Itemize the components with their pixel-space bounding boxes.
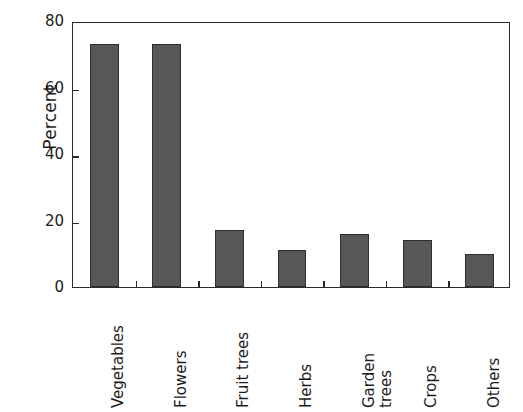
x-axis-category-label: Herbs (298, 290, 338, 408)
y-axis-tick-label: 0 (24, 280, 64, 295)
x-axis-category-label: Vegetables (110, 290, 150, 408)
x-axis-category-label: Flowers (173, 290, 213, 408)
y-axis-tick-label: 80 (24, 14, 64, 29)
bar (152, 44, 181, 287)
y-axis-tick-label: 60 (24, 81, 64, 96)
plot-area (72, 22, 510, 288)
x-axis-category-label: Crops (423, 290, 463, 408)
x-axis-category-label: Fruit trees (235, 290, 275, 408)
x-axis-category-label: Others (486, 290, 523, 408)
bar-chart: Percent 020406080 VegetablesFlowersFruit… (0, 0, 523, 412)
y-axis-tick-label: 40 (24, 147, 64, 162)
bar (90, 44, 119, 287)
x-axis-category-labels: VegetablesFlowersFruit treesHerbsGarden … (72, 292, 510, 410)
bar (403, 240, 432, 287)
x-axis-category-label: Garden trees (361, 290, 401, 408)
bar (340, 234, 369, 287)
bar (215, 230, 244, 287)
bar (278, 250, 307, 287)
bars-group (73, 23, 509, 287)
y-axis-tick-label: 20 (24, 214, 64, 229)
bar (465, 254, 494, 287)
